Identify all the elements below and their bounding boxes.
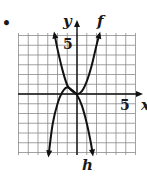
h-label: h [82,158,93,173]
y-tick-label-5: 5 [63,37,73,51]
y-axis-label: y [63,14,72,29]
x-axis-label: x [141,98,147,113]
f-label: f [97,14,103,29]
graph [0,0,147,176]
y-axis-arrow-icon [74,20,80,27]
x-tick-label-5: 5 [120,98,130,112]
curve-arrow-icon [46,150,52,157]
